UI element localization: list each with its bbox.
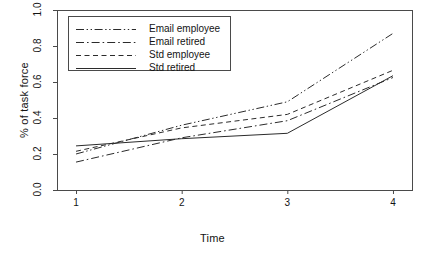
y-tick-label: 1.0 (32, 0, 43, 23)
series-line (76, 76, 393, 146)
chart-figure: % of task force Time 0.00.20.40.60.81.0 … (0, 0, 425, 256)
y-tick-label: 0.2 (32, 141, 43, 167)
legend-line-sample (75, 36, 137, 48)
y-tick-label: 0.0 (32, 177, 43, 203)
legend-label: Std employee (149, 49, 210, 60)
x-axis-title: Time (0, 232, 425, 244)
legend-label: Std retired (149, 62, 195, 73)
legend-line-sample (75, 62, 137, 74)
legend-label: Email retired (149, 36, 205, 47)
legend-item: Email employee (75, 22, 220, 35)
legend-item: Email retired (75, 35, 205, 48)
y-tick-label: 0.4 (32, 105, 43, 131)
x-tick-label: 2 (172, 197, 192, 208)
legend-line-sample (75, 49, 137, 61)
y-tick-label: 0.6 (32, 69, 43, 95)
series-line (76, 70, 393, 151)
x-tick-label: 1 (66, 197, 86, 208)
y-tick-label: 0.8 (32, 33, 43, 59)
x-tick-label: 4 (383, 197, 403, 208)
legend-item: Std employee (75, 48, 210, 61)
legend-label: Email employee (149, 23, 220, 34)
x-tick-label: 3 (277, 197, 297, 208)
series-line (76, 78, 393, 163)
legend-item: Std retired (75, 61, 195, 74)
y-axis-title: % of task force (18, 0, 30, 200)
legend: Email employeeEmail retiredStd employeeS… (68, 16, 231, 71)
legend-line-sample (75, 23, 137, 35)
